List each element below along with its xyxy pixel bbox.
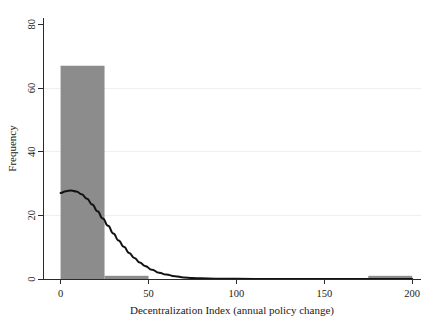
density-curve	[61, 191, 413, 279]
histogram-bar	[61, 66, 105, 279]
chart-canvas: 020406080 050100150200 Decentralization …	[0, 0, 432, 326]
x-tick-label: 150	[316, 288, 332, 299]
histogram-bars	[61, 66, 413, 279]
y-tick-label: 60	[26, 83, 37, 94]
x-axis-ticks: 050100150200	[58, 279, 420, 299]
x-tick-label: 100	[229, 288, 245, 299]
y-axis-ticks: 020406080	[26, 19, 43, 282]
y-tick-label: 0	[26, 276, 37, 281]
x-axis-title: Decentralization Index (annual policy ch…	[130, 304, 334, 317]
y-tick-label: 20	[26, 210, 37, 221]
y-axis-title: Frequency	[6, 125, 18, 172]
x-tick-label: 200	[404, 288, 420, 299]
x-tick-label: 50	[143, 288, 154, 299]
y-tick-label: 40	[26, 146, 37, 157]
x-tick-label: 0	[58, 288, 63, 299]
histogram-chart: 020406080 050100150200 Decentralization …	[0, 0, 432, 326]
y-tick-label: 80	[26, 19, 37, 30]
